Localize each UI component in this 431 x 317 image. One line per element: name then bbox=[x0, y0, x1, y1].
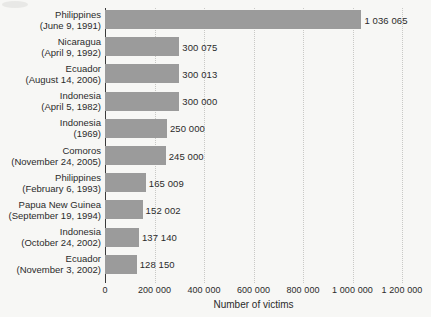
category-label: Ecuador(August 14, 2006) bbox=[0, 63, 101, 85]
category-label: Nicaragua(April 9, 1992) bbox=[0, 36, 101, 58]
bar bbox=[105, 64, 179, 83]
x-axis-tick-label: 200 000 bbox=[138, 285, 171, 295]
bar-chart: Philippines(June 9, 1991)Nicaragua(April… bbox=[0, 0, 431, 317]
bar-series: 1 036 065300 075300 013300 000250 000245… bbox=[105, 8, 402, 283]
category-label-name: Indonesia bbox=[0, 90, 101, 101]
bar-value-label: 152 002 bbox=[146, 204, 181, 215]
bar-value-label: 300 000 bbox=[182, 96, 217, 107]
category-label-date: (1969) bbox=[0, 128, 101, 139]
bar bbox=[105, 92, 179, 111]
category-label-date: (October 24, 2002) bbox=[0, 237, 101, 248]
bar-value-label: 165 009 bbox=[149, 177, 184, 188]
category-label: Indonesia(April 5, 1982) bbox=[0, 90, 101, 112]
bar bbox=[105, 10, 361, 29]
category-label-name: Indonesia bbox=[0, 117, 101, 128]
category-label-name: Indonesia bbox=[0, 226, 101, 237]
bar-row: 300 013 bbox=[105, 64, 402, 83]
category-label: Ecuador(November 3, 2002) bbox=[0, 253, 101, 275]
category-label-date: (April 5, 1982) bbox=[0, 101, 101, 112]
x-axis-tick-label: 400 000 bbox=[187, 285, 220, 295]
category-label-name: Ecuador bbox=[0, 63, 101, 74]
bar-value-label: 1 036 065 bbox=[364, 14, 407, 25]
bar-row: 300 075 bbox=[105, 37, 402, 56]
x-axis-tick-labels: 0200 000400 000600 000800 0001 000 0001 … bbox=[105, 285, 402, 299]
category-label: Papua New Guinea(September 19, 1994) bbox=[0, 199, 101, 221]
category-label-name: Papua New Guinea bbox=[0, 199, 101, 210]
x-axis-tick-label: 800 000 bbox=[286, 285, 319, 295]
category-label-name: Philippines bbox=[0, 172, 101, 183]
category-label-date: (June 9, 1991) bbox=[0, 20, 101, 31]
bar bbox=[105, 228, 139, 247]
bar bbox=[105, 37, 179, 56]
gridline bbox=[402, 8, 403, 283]
bar-value-label: 250 000 bbox=[170, 123, 205, 134]
category-label-date: (February 6, 1993) bbox=[0, 183, 101, 194]
x-axis-tick-label: 600 000 bbox=[237, 285, 270, 295]
category-label-date: (November 3, 2002) bbox=[0, 264, 101, 275]
bar bbox=[105, 200, 143, 219]
category-label-name: Comoros bbox=[0, 145, 101, 156]
bar-value-label: 245 000 bbox=[169, 150, 204, 161]
category-label: Philippines(June 9, 1991) bbox=[0, 9, 101, 31]
bar-row: 137 140 bbox=[105, 228, 402, 247]
bar-row: 250 000 bbox=[105, 119, 402, 138]
category-label-date: (April 9, 1992) bbox=[0, 47, 101, 58]
bar-value-label: 137 140 bbox=[142, 232, 177, 243]
bar-row: 165 009 bbox=[105, 173, 402, 192]
x-axis-tick-label: 1 000 000 bbox=[332, 285, 373, 295]
category-label: Philippines(February 6, 1993) bbox=[0, 172, 101, 194]
category-label-date: (August 14, 2006) bbox=[0, 74, 101, 85]
bar-value-label: 300 013 bbox=[182, 68, 217, 79]
category-label-date: (September 19, 1994) bbox=[0, 210, 101, 221]
bar-row: 128 150 bbox=[105, 255, 402, 274]
category-label: Indonesia(October 24, 2002) bbox=[0, 226, 101, 248]
category-label-name: Nicaragua bbox=[0, 36, 101, 47]
bar bbox=[105, 119, 167, 138]
bar bbox=[105, 146, 166, 165]
bar-row: 245 000 bbox=[105, 146, 402, 165]
bar-row: 300 000 bbox=[105, 92, 402, 111]
bar-value-label: 300 075 bbox=[182, 41, 217, 52]
bar bbox=[105, 255, 137, 274]
category-label: Indonesia(1969) bbox=[0, 117, 101, 139]
bar-row: 1 036 065 bbox=[105, 10, 402, 29]
scan-artifact bbox=[2, 1, 28, 8]
bar-value-label: 128 150 bbox=[140, 259, 175, 270]
x-axis-tick-label: 1 200 000 bbox=[382, 285, 423, 295]
category-label-name: Ecuador bbox=[0, 253, 101, 264]
x-axis-title: Number of victims bbox=[105, 299, 402, 310]
x-axis-tick-label: 0 bbox=[102, 285, 107, 295]
bar bbox=[105, 173, 146, 192]
plot-area: 1 036 065300 075300 013300 000250 000245… bbox=[105, 8, 402, 283]
category-label-date: (November 24, 2005) bbox=[0, 156, 101, 167]
category-label-name: Philippines bbox=[0, 9, 101, 20]
category-axis-labels: Philippines(June 9, 1991)Nicaragua(April… bbox=[0, 8, 101, 283]
category-label: Comoros(November 24, 2005) bbox=[0, 145, 101, 167]
bar-row: 152 002 bbox=[105, 200, 402, 219]
